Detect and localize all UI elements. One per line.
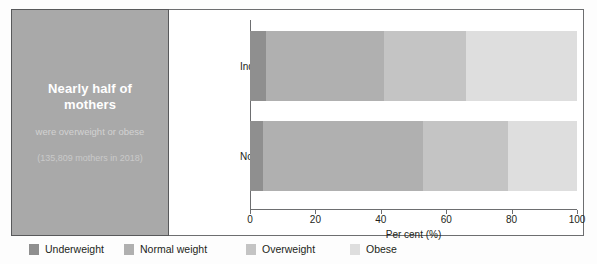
- bar-segment-underweight: [250, 31, 266, 101]
- legend-label: Underweight: [45, 243, 104, 255]
- legend-label: Obese: [366, 243, 397, 255]
- legend-item-obese[interactable]: Obese: [350, 243, 397, 255]
- bar-segment-overweight: [384, 31, 466, 101]
- bar-segment-obese: [508, 121, 577, 191]
- legend-label: Overweight: [262, 243, 315, 255]
- x-tick-label: 100: [569, 214, 586, 225]
- bar-segment-overweight: [423, 121, 508, 191]
- legend-item-overweight[interactable]: Overweight: [246, 243, 315, 255]
- legend-swatch-icon: [29, 244, 39, 255]
- x-tick-label: 40: [375, 214, 386, 225]
- legend-item-normal-weight[interactable]: Normal weight: [124, 243, 207, 255]
- bar-segment-normal: [263, 121, 423, 191]
- callout-note: (135,809 mothers in 2018): [18, 152, 163, 164]
- bar-segment-normal: [266, 31, 384, 101]
- x-axis-line: [250, 209, 577, 210]
- x-tick-label: 80: [506, 214, 517, 225]
- x-tick-label: 0: [247, 214, 253, 225]
- bar-segment-obese: [466, 31, 577, 101]
- stacked-bar: [250, 31, 577, 101]
- x-tick-label: 60: [441, 214, 452, 225]
- legend-swatch-icon: [350, 244, 360, 255]
- callout-panel: Nearly half of mothers were overweight o…: [11, 9, 169, 236]
- x-axis-title: Per cent (%): [386, 229, 442, 240]
- infographic-root: Nearly half of mothers were overweight o…: [0, 0, 597, 264]
- callout-subtext: were overweight or obese: [18, 126, 163, 138]
- x-tick-label: 20: [310, 214, 321, 225]
- stacked-bar: [250, 121, 577, 191]
- chart-legend: UnderweightNormal weightOverweightObese: [11, 241, 584, 257]
- legend-swatch-icon: [246, 244, 256, 255]
- callout-headline: Nearly half of mothers: [25, 81, 155, 113]
- legend-item-underweight[interactable]: Underweight: [29, 243, 104, 255]
- bar-segment-underweight: [250, 121, 263, 191]
- legend-swatch-icon: [124, 244, 134, 255]
- chart-plot-area: IndigenousNon-Indigenous020406080100Per …: [169, 9, 584, 236]
- legend-label: Normal weight: [140, 243, 207, 255]
